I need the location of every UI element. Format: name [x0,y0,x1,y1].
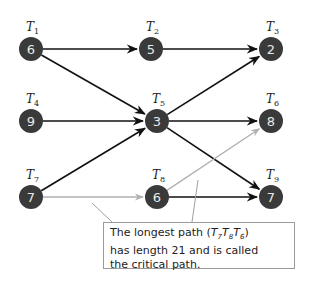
node-T1: 6T1 [19,20,43,61]
callout-line-1: The longest path (T7T8T6) [110,226,288,244]
node-T8: 6T8 [145,168,169,209]
node-label: T9 [266,168,279,184]
node-T6: 8T6 [259,92,283,133]
node-label: T6 [266,92,279,108]
node-T7: 7T7 [19,168,43,209]
edge-T1-T5 [41,55,144,114]
edge-T8-T6 [167,129,259,191]
node-label: T5 [152,92,165,108]
node-T2: 5T2 [139,20,163,61]
edge-T5-T3 [167,56,259,114]
callout-text: ) [244,226,248,239]
callout-pointers [92,180,198,222]
node-label: T4 [26,92,39,108]
path-node-label: T7 [211,226,222,239]
path-node-label: T8 [222,226,233,239]
callout-path-nodes: T7T8T6 [211,226,245,239]
node-T4: 9T4 [19,92,43,133]
node-T3: 2T3 [259,20,283,61]
node-duration: 5 [147,42,155,57]
path-node-label: T6 [233,226,244,239]
node-duration: 6 [153,190,161,205]
node-duration: 3 [153,114,161,129]
node-label: T8 [152,168,165,184]
node-duration: 2 [267,42,275,57]
node-duration: 7 [267,190,275,205]
node-duration: 6 [27,42,35,57]
edge-T5-T9 [167,128,259,190]
node-label: T7 [26,168,39,184]
node-duration: 9 [27,114,35,129]
edge-T7-T5 [41,128,145,191]
node-label: T3 [266,20,279,36]
node-duration: 7 [27,190,35,205]
callout-line-2: has length 21 and is called [110,244,288,258]
node-T5: 3T5 [145,92,169,133]
critical-path-callout: The longest path (T7T8T6) has length 21 … [103,222,295,269]
callout-text: The longest path ( [110,226,211,239]
node-T9: 7T9 [259,168,283,209]
node-label: T1 [26,20,39,36]
node-duration: 8 [267,114,275,129]
callout-line-3: the critical path. [110,258,288,272]
node-label: T2 [146,20,159,36]
